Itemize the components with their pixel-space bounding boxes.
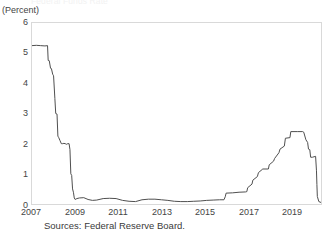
- chart-title: Federal Funds Rate: [31, 0, 108, 6]
- y-tick-label-1: 1: [2, 170, 28, 179]
- y-tick-label-3: 3: [2, 109, 28, 118]
- x-tick-label-2017: 2017: [232, 207, 266, 217]
- x-tick-label-2019: 2019: [275, 207, 309, 217]
- x-tick-label-2013: 2013: [145, 207, 179, 217]
- y-tick-label-4: 4: [2, 79, 28, 88]
- y-axis: 6 5 4 3 2 1 0: [0, 0, 28, 235]
- x-tick-label-2011: 2011: [101, 207, 135, 217]
- y-tick-label-2: 2: [2, 140, 28, 149]
- federal-funds-rate-line: [32, 45, 321, 202]
- y-tick-label-5: 5: [2, 48, 28, 57]
- source-note: Sources: Federal Reserve Board.: [44, 220, 185, 231]
- x-tick-label-2015: 2015: [188, 207, 222, 217]
- plot-area: [31, 22, 322, 205]
- x-axis: 2007 2009 2011 2013 2015 2017 2019: [0, 207, 331, 221]
- x-tick-label-2009: 2009: [58, 207, 92, 217]
- y-tick-label-6: 6: [2, 18, 28, 27]
- data-line-svg: [32, 23, 321, 204]
- federal-funds-rate-chart-figure: Federal Funds Rate (Percent) 6 5 4 3 2 1…: [0, 0, 331, 235]
- x-tick-label-2007: 2007: [14, 207, 48, 217]
